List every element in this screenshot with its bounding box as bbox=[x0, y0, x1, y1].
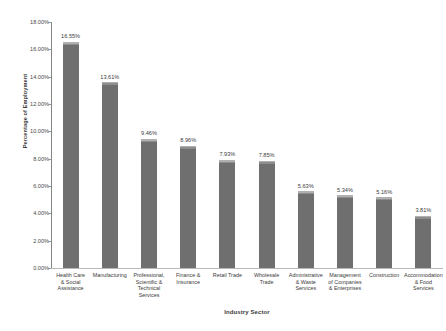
bar-slot: 5.16% bbox=[365, 22, 404, 268]
x-axis-category-label: Managementof Companies& Enterprises bbox=[324, 272, 366, 292]
x-axis-category-label-line: Services bbox=[285, 285, 327, 292]
bar[interactable] bbox=[141, 139, 157, 268]
bar-value-label: 16.55% bbox=[61, 33, 80, 39]
x-axis-category-label-line: Health Care bbox=[50, 272, 92, 279]
bar-slot: 9.46% bbox=[129, 22, 168, 268]
bar-value-label: 3.81% bbox=[415, 207, 431, 213]
x-axis-category-label-line: Technical bbox=[128, 285, 170, 292]
bar[interactable] bbox=[337, 195, 353, 268]
x-axis-category-label-line: Professional, bbox=[128, 272, 170, 279]
bar-value-label: 7.85% bbox=[259, 152, 275, 158]
x-axis-category-label-line: Retail Trade bbox=[206, 272, 248, 279]
x-axis-category-label-line: Insurance bbox=[167, 279, 209, 286]
x-axis-line bbox=[51, 268, 443, 269]
y-axis-tick-label: 14.00% bbox=[0, 74, 49, 80]
x-axis-category-label-line: Services bbox=[128, 292, 170, 299]
x-axis-category-label-line: Construction bbox=[363, 272, 405, 279]
x-axis-category-label-line: & Waste bbox=[285, 279, 327, 286]
x-axis-category-label-line: Services bbox=[402, 285, 444, 292]
x-axis-category-label-line: Wholesale bbox=[246, 272, 288, 279]
bar[interactable] bbox=[219, 160, 235, 268]
x-axis-category-label-line: & Social bbox=[50, 279, 92, 286]
x-axis-title: Industry Sector bbox=[51, 309, 443, 315]
bar[interactable] bbox=[102, 82, 118, 268]
x-axis-category-label-line: Accommodation bbox=[402, 272, 444, 279]
bar-chart: Percentage of Employment 18.00%16.00%14.… bbox=[0, 0, 446, 331]
x-axis-category-label-line: Finance & bbox=[167, 272, 209, 279]
bar[interactable] bbox=[376, 197, 392, 268]
bar-value-label: 8.96% bbox=[180, 137, 196, 143]
y-axis-tick-label: 18.00% bbox=[0, 19, 49, 25]
bar-slot: 16.55% bbox=[51, 22, 90, 268]
bar[interactable] bbox=[298, 191, 314, 268]
x-axis-category-label: Health Care& SocialAssistance bbox=[50, 272, 92, 292]
bar-value-label: 5.16% bbox=[376, 189, 392, 195]
bar[interactable] bbox=[180, 146, 196, 268]
y-axis-tick-label: 10.00% bbox=[0, 128, 49, 134]
y-axis-tick-label: 6.00% bbox=[0, 183, 49, 189]
x-axis-category-label: Construction bbox=[363, 272, 405, 279]
y-axis-tick-label: 0.00% bbox=[0, 265, 49, 271]
plot-area: 16.55%13.61%9.46%8.96%7.93%7.85%5.63%5.3… bbox=[51, 22, 443, 268]
bar-value-label: 9.46% bbox=[141, 130, 157, 136]
bar[interactable] bbox=[259, 161, 275, 268]
bar-slot: 7.85% bbox=[247, 22, 286, 268]
bar-slot: 5.63% bbox=[286, 22, 325, 268]
x-axis-category-label-line: Management bbox=[324, 272, 366, 279]
bar-value-label: 7.93% bbox=[219, 151, 235, 157]
x-axis-category-label-line: & Food bbox=[402, 279, 444, 286]
y-axis-tick-label: 8.00% bbox=[0, 156, 49, 162]
bar-value-label: 13.61% bbox=[100, 74, 119, 80]
bar-slot: 8.96% bbox=[169, 22, 208, 268]
bar-slot: 13.61% bbox=[90, 22, 129, 268]
x-axis-category-label: Administrative& WasteServices bbox=[285, 272, 327, 292]
y-axis-tick-label: 16.00% bbox=[0, 46, 49, 52]
bar[interactable] bbox=[63, 42, 79, 268]
x-axis-category-label: Professional,Scientific &TechnicalServic… bbox=[128, 272, 170, 298]
bar-value-label: 5.63% bbox=[298, 183, 314, 189]
bar-value-label: 5.34% bbox=[337, 187, 353, 193]
y-axis-tick-mark bbox=[48, 268, 51, 269]
bar[interactable] bbox=[415, 216, 431, 268]
x-axis-category-label-line: Assistance bbox=[50, 285, 92, 292]
x-axis-category-label: Retail Trade bbox=[206, 272, 248, 279]
bar-slot: 5.34% bbox=[325, 22, 364, 268]
x-axis-category-label-line: Manufacturing bbox=[89, 272, 131, 279]
x-axis-category-label-line: Scientific & bbox=[128, 279, 170, 286]
x-axis-category-label-line: Administrative bbox=[285, 272, 327, 279]
y-axis-tick-label: 4.00% bbox=[0, 210, 49, 216]
x-axis-category-label: WholesaleTrade bbox=[246, 272, 288, 285]
bar-slot: 3.81% bbox=[404, 22, 443, 268]
x-axis-category-label: Manufacturing bbox=[89, 272, 131, 279]
x-axis-category-label: Accommodation& FoodServices bbox=[402, 272, 444, 292]
bar-slot: 7.93% bbox=[208, 22, 247, 268]
x-axis-category-label-line: & Enterprises bbox=[324, 285, 366, 292]
x-axis-category-label: Finance &Insurance bbox=[167, 272, 209, 285]
y-axis-tick-label: 12.00% bbox=[0, 101, 49, 107]
x-axis-category-label-line: of Companies bbox=[324, 279, 366, 286]
y-axis-tick-label: 2.00% bbox=[0, 238, 49, 244]
x-axis-category-label-line: Trade bbox=[246, 279, 288, 286]
